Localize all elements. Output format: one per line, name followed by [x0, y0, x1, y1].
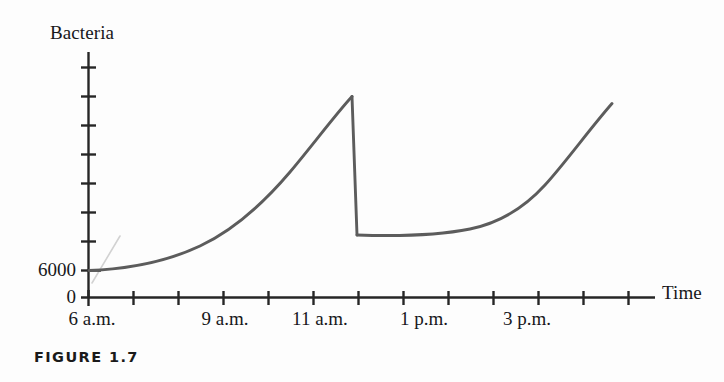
y-axis-title: Bacteria	[50, 22, 114, 44]
scan-artifact-line	[92, 236, 120, 283]
figure-container: Bacteria Time 6000 0 6 a.m. 9 a.m. 11 a.…	[0, 0, 724, 382]
curve-population-crash	[352, 97, 357, 236]
y-tick-label-6000: 6000	[24, 259, 76, 281]
x-tick-label-3pm: 3 p.m.	[503, 308, 551, 330]
y-axis-ticks	[81, 68, 101, 271]
x-axis-title: Time	[662, 282, 702, 304]
figure-caption: FIGURE 1.7	[34, 349, 139, 365]
x-tick-label-11am: 11 a.m.	[292, 308, 348, 330]
chart-plot-area: Bacteria Time 6000 0 6 a.m. 9 a.m. 11 a.…	[0, 0, 724, 340]
curve-growth-phase-2	[357, 104, 612, 236]
curve-growth-phase-1	[89, 97, 352, 271]
x-tick-label-9am: 9 a.m.	[202, 308, 249, 330]
y-tick-label-0: 0	[24, 286, 76, 308]
bacteria-vs-time-line-chart	[0, 0, 724, 340]
x-tick-label-1pm: 1 p.m.	[400, 308, 448, 330]
x-tick-label-6am: 6 a.m.	[69, 308, 116, 330]
